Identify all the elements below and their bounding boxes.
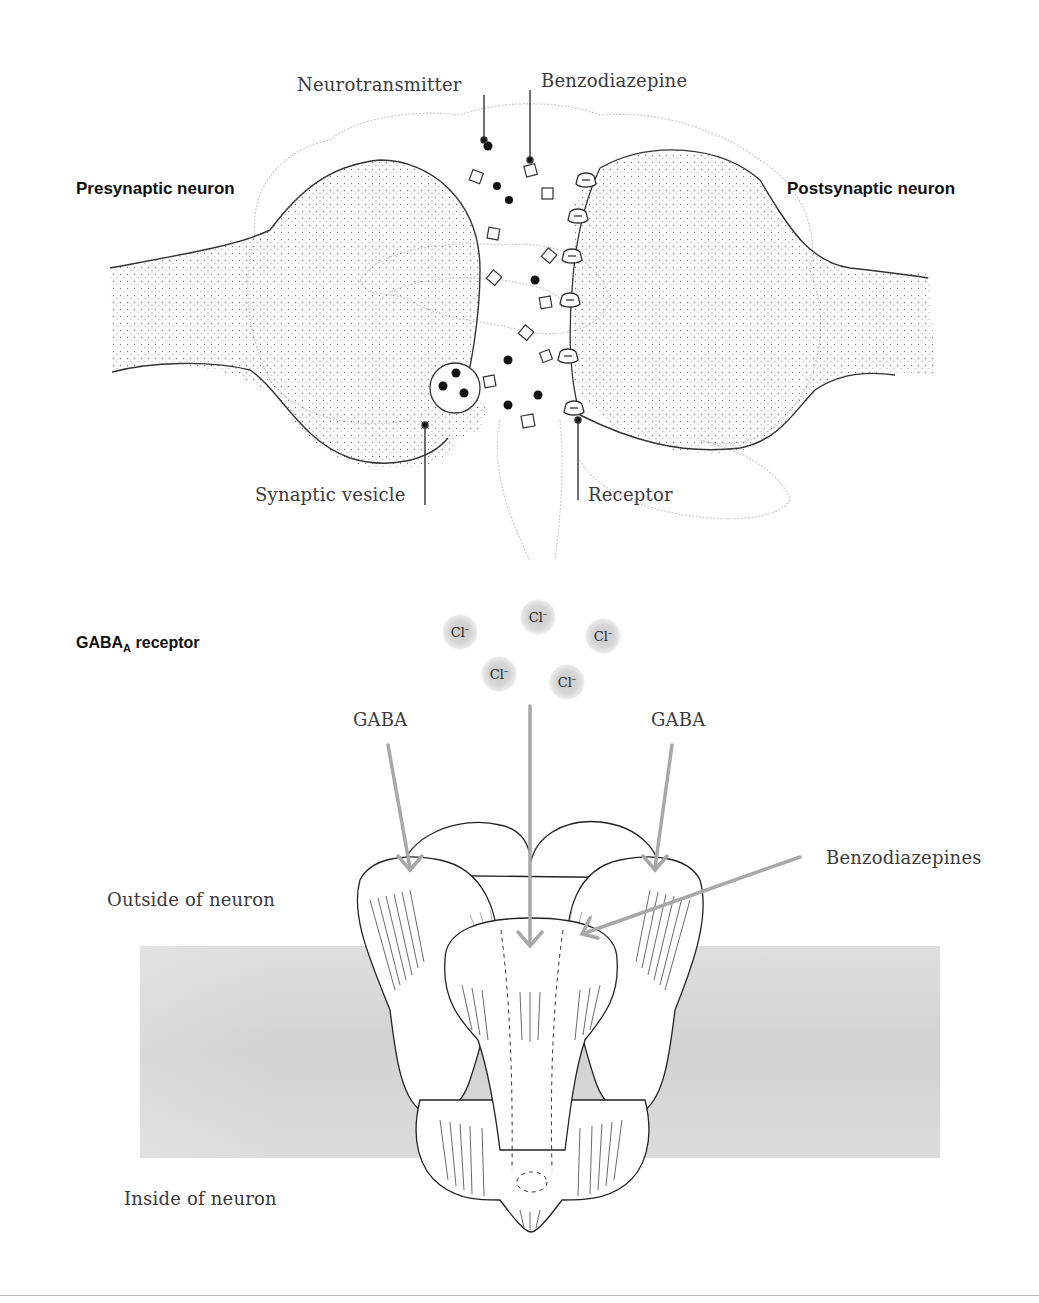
label-gaba-right: GABA	[651, 709, 705, 730]
label-outside-of-neuron: Outside of neuron	[107, 889, 275, 910]
bottom-divider	[0, 1295, 1039, 1296]
benzodiazepine-squares	[469, 164, 557, 428]
diagram-canvas: Neurotransmitter Benzodiazepine Presynap…	[0, 0, 1039, 1303]
chloride-ion: Cl–	[585, 618, 621, 654]
title-postsynaptic-neuron: Postsynaptic neuron	[787, 179, 955, 199]
presynaptic-neuron-shape	[110, 160, 485, 470]
chloride-ion: Cl–	[442, 614, 478, 650]
label-benzodiazepines: Benzodiazepines	[826, 847, 982, 868]
chloride-ion: Cl–	[549, 664, 585, 700]
label-gaba-left: GABA	[353, 709, 407, 730]
title-presynaptic-neuron: Presynaptic neuron	[76, 179, 235, 199]
chloride-ion: Cl–	[520, 599, 556, 635]
chloride-ion: Cl–	[481, 656, 517, 692]
label-neurotransmitter: Neurotransmitter	[297, 74, 462, 95]
label-inside-of-neuron: Inside of neuron	[124, 1188, 277, 1209]
title-gaba-a-receptor: GABAA receptor	[76, 634, 200, 654]
label-benzodiazepine: Benzodiazepine	[541, 70, 687, 91]
label-synaptic-vesicle: Synaptic vesicle	[255, 484, 406, 505]
label-receptor: Receptor	[588, 484, 673, 505]
